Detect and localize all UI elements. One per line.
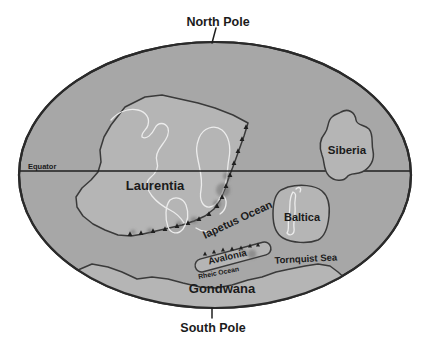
paleogeography-map: North Pole South Pole Equator Laurentia …: [0, 0, 429, 350]
baltica-label: Baltica: [284, 211, 321, 223]
north-pole-tick: [212, 28, 216, 43]
siberia-label: Siberia: [328, 144, 367, 156]
south-pole-label: South Pole: [180, 321, 245, 335]
laurentia-label: Laurentia: [126, 178, 185, 193]
equator-label: Equator: [28, 162, 56, 171]
map-canvas: North Pole South Pole Equator Laurentia …: [0, 0, 429, 350]
gondwana-label: Gondwana: [189, 281, 256, 296]
north-pole-label: North Pole: [186, 15, 249, 29]
